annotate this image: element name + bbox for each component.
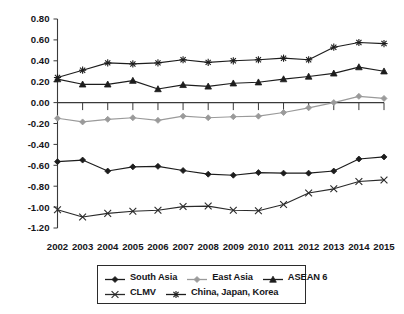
data-point-diamond bbox=[381, 154, 387, 160]
legend-swatch bbox=[186, 271, 208, 282]
data-point-asterisk bbox=[355, 39, 362, 46]
data-point-diamond bbox=[331, 168, 337, 174]
data-point-asterisk bbox=[129, 60, 136, 67]
data-point-asterisk bbox=[79, 67, 86, 74]
data-point-asterisk bbox=[230, 57, 237, 64]
legend-marker-asterisk-icon bbox=[165, 289, 187, 300]
y-tick-label: -0.40 bbox=[28, 139, 50, 150]
data-point-diamond bbox=[180, 113, 186, 119]
data-point-diamond bbox=[230, 172, 236, 178]
axis-lines bbox=[54, 19, 385, 228]
legend-item-clmv[interactable]: CLMV bbox=[104, 286, 156, 297]
y-tick-label: -1.00 bbox=[28, 202, 50, 213]
x-tick-label: 2009 bbox=[223, 241, 244, 252]
legend-item-south-asia[interactable]: South Asia bbox=[104, 271, 177, 282]
data-point-triangle bbox=[130, 77, 137, 83]
legend-label: China, Japan, Korea bbox=[191, 287, 278, 297]
data-point-diamond bbox=[105, 168, 111, 174]
data-point-diamond bbox=[180, 168, 186, 174]
y-tick-label: 0.80 bbox=[31, 13, 50, 24]
chart-container: 0.800.600.400.200.00-0.20-0.40-0.60-0.80… bbox=[0, 0, 404, 314]
legend-swatch bbox=[104, 271, 126, 282]
x-tick-label: 2013 bbox=[323, 241, 344, 252]
data-point-cross bbox=[280, 201, 287, 208]
legend-item-asean-6[interactable]: ASEAN 6 bbox=[262, 271, 328, 282]
data-point-diamond bbox=[112, 277, 118, 283]
data-point-diamond bbox=[230, 114, 236, 120]
data-point-asterisk bbox=[255, 56, 262, 63]
data-point-diamond bbox=[55, 159, 61, 165]
data-point-diamond bbox=[255, 113, 261, 119]
data-point-triangle bbox=[356, 64, 363, 70]
legend-label: ASEAN 6 bbox=[288, 272, 328, 282]
data-point-asterisk bbox=[305, 56, 312, 63]
data-point-diamond bbox=[306, 170, 312, 176]
data-point-diamond bbox=[306, 105, 312, 111]
chart-legend: South AsiaEast AsiaASEAN 6 CLMVChina, Ja… bbox=[97, 265, 306, 304]
data-point-asterisk bbox=[330, 44, 337, 51]
y-tick-label: 0.00 bbox=[31, 97, 50, 108]
line-chart-svg: 0.800.600.400.200.00-0.20-0.40-0.60-0.80… bbox=[0, 0, 404, 260]
series-group bbox=[54, 39, 388, 221]
data-point-asterisk bbox=[54, 74, 61, 81]
legend-item-china-japan-korea[interactable]: China, Japan, Korea bbox=[165, 286, 278, 297]
y-tick-label: -1.20 bbox=[28, 222, 50, 233]
data-point-diamond bbox=[155, 117, 161, 123]
data-point-asterisk bbox=[104, 59, 111, 66]
legend-marker-diamond-icon bbox=[186, 274, 208, 285]
legend-marker-cross-icon bbox=[104, 289, 126, 300]
data-point-diamond bbox=[381, 95, 387, 101]
data-point-diamond bbox=[205, 171, 211, 177]
data-point-diamond bbox=[80, 119, 86, 125]
x-tick-label: 2012 bbox=[298, 241, 319, 252]
data-point-diamond bbox=[130, 164, 136, 170]
x-tick-label: 2008 bbox=[198, 241, 220, 252]
data-point-asterisk bbox=[280, 55, 287, 62]
series-asean-6 bbox=[54, 64, 387, 92]
data-point-diamond bbox=[356, 93, 362, 99]
x-tick-label: 2002 bbox=[47, 241, 68, 252]
data-point-diamond bbox=[356, 156, 362, 162]
legend-swatch bbox=[104, 286, 126, 297]
data-point-asterisk bbox=[179, 56, 186, 63]
legend-label: South Asia bbox=[130, 272, 177, 282]
x-tick-label: 2003 bbox=[72, 241, 93, 252]
data-point-asterisk bbox=[380, 40, 387, 47]
x-tick-label: 2004 bbox=[97, 241, 119, 252]
legend-marker-diamond-icon bbox=[104, 274, 126, 285]
legend-marker-triangle-icon bbox=[262, 274, 284, 285]
legend-swatch bbox=[262, 271, 284, 282]
legend-row: CLMVChina, Japan, Korea bbox=[104, 284, 299, 299]
x-tick-label: 2007 bbox=[172, 241, 193, 252]
x-tick-label: 2006 bbox=[147, 241, 168, 252]
series-south-asia bbox=[55, 154, 388, 178]
data-point-asterisk bbox=[172, 291, 179, 298]
data-point-diamond bbox=[194, 277, 200, 283]
legend-row: South AsiaEast AsiaASEAN 6 bbox=[104, 269, 299, 284]
y-tick-label: 0.60 bbox=[31, 34, 50, 45]
x-tick-label: 2014 bbox=[348, 241, 370, 252]
legend-label: East Asia bbox=[212, 272, 253, 282]
legend-item-east-asia[interactable]: East Asia bbox=[186, 271, 253, 282]
data-point-diamond bbox=[105, 116, 111, 122]
data-point-diamond bbox=[80, 157, 86, 163]
x-tick-label: 2010 bbox=[248, 241, 269, 252]
y-tick-label: -0.60 bbox=[28, 160, 50, 171]
x-tick-label: 2015 bbox=[373, 241, 395, 252]
x-tick-label: 2011 bbox=[273, 241, 294, 252]
y-tick-label: -0.20 bbox=[28, 118, 50, 129]
x-tick-label: 2005 bbox=[122, 241, 144, 252]
data-point-diamond bbox=[281, 170, 287, 176]
data-point-asterisk bbox=[154, 59, 161, 66]
series-china-japan-korea bbox=[54, 39, 388, 81]
data-point-diamond bbox=[331, 100, 337, 106]
y-tick-label: 0.20 bbox=[31, 76, 50, 87]
data-point-diamond bbox=[130, 115, 136, 121]
data-point-diamond bbox=[55, 115, 61, 121]
y-tick-label: 0.40 bbox=[31, 55, 50, 66]
plot-area: 0.800.600.400.200.00-0.20-0.40-0.60-0.80… bbox=[0, 0, 404, 260]
x-axis-tick-labels: 2002200320042005200620072008200920102011… bbox=[47, 241, 396, 252]
series-east-asia bbox=[55, 93, 388, 125]
legend-label: CLMV bbox=[130, 287, 156, 297]
data-point-diamond bbox=[281, 110, 287, 116]
